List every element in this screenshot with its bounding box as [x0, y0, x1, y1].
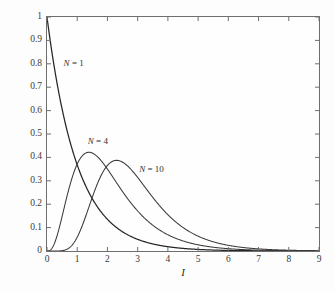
y-tick-label: 0.9 [30, 35, 42, 45]
y-tick-label: 0.1 [30, 223, 42, 233]
series-annotation: N = 10 [139, 164, 164, 174]
series-annotation: N = 4 [88, 136, 108, 146]
x-tick-label: 9 [309, 255, 329, 265]
y-tick-label: 0.2 [30, 199, 42, 209]
x-tick-label: 4 [158, 255, 178, 265]
y-tick-label: 0.6 [30, 106, 42, 116]
x-tick-label: 5 [188, 255, 208, 265]
x-tick-label: 3 [128, 255, 148, 265]
plot-area [46, 16, 320, 252]
series-line [47, 152, 319, 251]
series-line [47, 17, 319, 251]
x-tick-label: 2 [97, 255, 117, 265]
x-tick-label: 0 [37, 255, 57, 265]
y-tick-label: 0.7 [30, 82, 42, 92]
series-annotation: N = 1 [64, 58, 84, 68]
y-tick-label: 0.4 [30, 152, 42, 162]
x-tick-label: 7 [249, 255, 269, 265]
series-line [47, 160, 319, 251]
chart-figure: pdf of Imax I 00.10.20.30.40.50.60.70.80… [0, 0, 335, 291]
x-tick-label: 1 [67, 255, 87, 265]
y-tick-label: 1 [37, 12, 42, 22]
x-tick-label: 6 [218, 255, 238, 265]
x-axis-title: I [46, 266, 320, 278]
y-tick-label: 0.3 [30, 176, 42, 186]
y-tick-label: 0.8 [30, 59, 42, 69]
curve-layer [47, 17, 319, 251]
x-tick-label: 8 [279, 255, 299, 265]
y-tick-label: 0.5 [30, 129, 42, 139]
